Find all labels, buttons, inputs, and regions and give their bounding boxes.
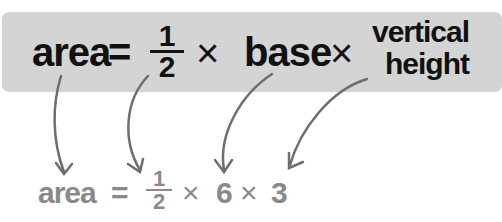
example-equals: = (111, 178, 128, 208)
arrow-base (223, 74, 272, 170)
example-height-value: 3 (271, 178, 287, 208)
fraction-denominator: 2 (146, 191, 172, 212)
example-base-value: 6 (216, 178, 232, 208)
example-half-fraction: 1 2 (146, 168, 172, 212)
fraction-numerator: 1 (146, 168, 172, 189)
arrow-height (290, 79, 367, 165)
example-times-1: × (182, 178, 199, 208)
example-times-2: × (240, 178, 257, 208)
example-area: area (38, 178, 96, 208)
arrow-area (55, 76, 64, 172)
arrow-half (128, 76, 148, 170)
